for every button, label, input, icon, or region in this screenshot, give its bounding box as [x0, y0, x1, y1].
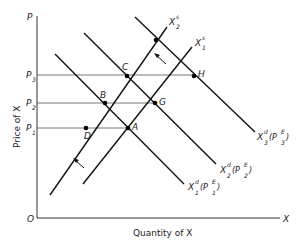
svg-text:s: s	[176, 13, 179, 20]
svg-text:): )	[248, 166, 252, 175]
svg-text:E: E	[281, 128, 285, 135]
svg-text:E: E	[244, 161, 248, 168]
svg-text:3: 3	[32, 76, 36, 83]
label-g: G	[159, 97, 166, 107]
label-a: A	[131, 122, 138, 132]
y-axis-symbol: P	[27, 12, 33, 22]
label-h: H	[198, 69, 205, 79]
demand-label-x2d: X d 2 (P E 2 )	[219, 161, 252, 179]
p2-label: P 2	[26, 98, 36, 111]
demand-label-x3d: X d 3 (P E 3 )	[256, 128, 289, 146]
shift-arrow-upper	[154, 53, 166, 64]
point-c-dot	[125, 74, 130, 79]
label-c: C	[122, 62, 129, 72]
demand-curve-x1d	[55, 54, 184, 184]
svg-text:1: 1	[32, 129, 36, 136]
supply-curve-x1s	[83, 47, 192, 184]
svg-text:(P: (P	[232, 166, 240, 175]
svg-text:): )	[285, 133, 289, 142]
svg-text:2: 2	[176, 23, 180, 30]
point-h-dot	[192, 74, 197, 79]
svg-text:1: 1	[202, 44, 206, 51]
supply-label-x1s: X s 1	[194, 34, 206, 51]
p1-label: P 1	[26, 123, 36, 136]
svg-text:d: d	[264, 128, 268, 135]
p3-label: P 3	[26, 70, 36, 83]
point-g-dot	[153, 101, 158, 106]
svg-text:(P: (P	[269, 133, 277, 142]
x-axis-symbol: X	[282, 214, 290, 224]
svg-text:1: 1	[195, 189, 199, 196]
y-axis-title: Price of X	[12, 105, 22, 148]
svg-text:): )	[216, 183, 220, 192]
svg-text:2: 2	[32, 104, 36, 111]
supply-demand-diagram: C B A D G H P X O P 3 P 2 P 1 X s 2 X s …	[0, 0, 303, 247]
demand-label-x1d: X d 1 (P E 1 )	[187, 178, 220, 196]
svg-text:2: 2	[244, 172, 248, 179]
svg-text:d: d	[195, 178, 199, 185]
svg-text:d: d	[227, 161, 231, 168]
origin-label: O	[27, 214, 34, 224]
x-axis-title: Quantity of X	[133, 228, 192, 238]
svg-text:X: X	[194, 38, 202, 48]
svg-text:3: 3	[264, 139, 268, 146]
svg-text:3: 3	[281, 139, 285, 146]
supply-label-x2s: X s 2	[168, 13, 180, 30]
svg-text:X: X	[256, 132, 264, 142]
diagram-canvas: C B A D G H P X O P 3 P 2 P 1 X s 2 X s …	[0, 0, 303, 247]
supply-curve-x2s	[50, 27, 167, 195]
point-a-dot	[126, 126, 131, 131]
svg-text:E: E	[212, 178, 216, 185]
svg-text:X: X	[168, 17, 176, 27]
svg-text:X: X	[219, 165, 227, 175]
svg-text:s: s	[202, 34, 205, 41]
label-b: B	[100, 90, 106, 100]
svg-text:1: 1	[212, 189, 216, 196]
point-d-dot	[84, 126, 89, 131]
label-d: D	[84, 131, 91, 141]
svg-text:(P: (P	[200, 183, 208, 192]
svg-text:X: X	[187, 182, 195, 192]
point-b-dot	[103, 101, 108, 106]
point-top-dot	[154, 38, 159, 43]
shift-arrow-lower	[73, 158, 84, 168]
svg-text:2: 2	[227, 172, 231, 179]
